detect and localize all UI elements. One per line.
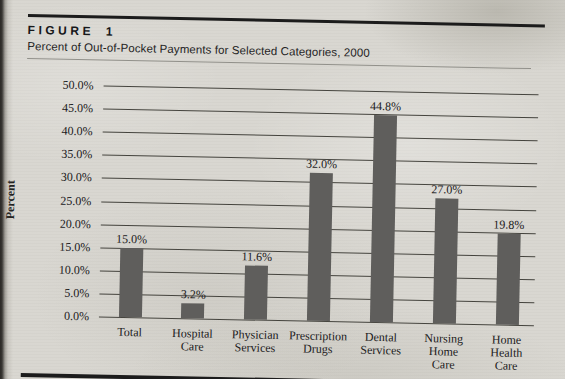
y-tick-label: 5.0% — [29, 285, 89, 301]
bar — [495, 233, 520, 325]
y-axis-title: Percent — [3, 170, 18, 230]
bar-value-label: 11.6% — [225, 249, 289, 265]
bar — [370, 115, 397, 322]
bar — [244, 266, 268, 320]
bar-value-label: 44.8% — [353, 99, 417, 115]
y-tick-label: 30.0% — [32, 170, 92, 186]
y-tick-label: 20.0% — [31, 216, 91, 232]
bar — [307, 173, 333, 321]
category-label-line: Care — [468, 359, 544, 374]
bar — [433, 198, 458, 323]
scan-content: FIGURE 1 Percent of Out-of-Pocket Paymen… — [0, 0, 565, 379]
y-tick-label: 50.0% — [33, 77, 93, 93]
bar-chart: Percent 0.0%5.0%10.0%15.0%20.0%25.0%30.0… — [0, 0, 565, 379]
bar-value-label: 27.0% — [415, 182, 479, 198]
y-tick-label: 25.0% — [31, 193, 91, 209]
y-tick-label: 10.0% — [30, 262, 90, 278]
bar — [118, 248, 142, 318]
y-tick-label: 0.0% — [29, 308, 89, 324]
y-gridline — [103, 132, 538, 142]
bar-value-label: 32.0% — [289, 156, 353, 172]
scanned-page: FIGURE 1 Percent of Out-of-Pocket Paymen… — [0, 0, 565, 379]
bar — [181, 303, 204, 318]
bar-value-label: 19.8% — [477, 217, 541, 233]
bar-value-label: 3.2% — [161, 287, 225, 303]
y-tick-label: 15.0% — [30, 239, 90, 255]
bar-value-label: 15.0% — [99, 231, 163, 247]
y-gridline — [103, 109, 538, 119]
y-gridline — [104, 86, 539, 96]
y-tick-label: 35.0% — [32, 146, 92, 162]
y-tick-label: 45.0% — [33, 100, 93, 116]
category-label: HomeHealthCare — [468, 333, 545, 374]
y-tick-label: 40.0% — [33, 123, 93, 139]
